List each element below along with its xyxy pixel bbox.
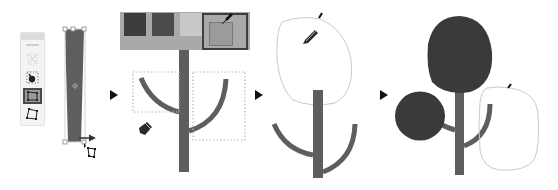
step-arrow-3-icon xyxy=(380,90,388,100)
right-branch xyxy=(464,104,490,146)
step-arrow-1-icon xyxy=(110,90,118,100)
trunk xyxy=(179,50,189,172)
step-4-tree xyxy=(395,16,539,175)
left-branch xyxy=(274,124,313,155)
eyedropper-icon xyxy=(222,14,232,24)
left-branch xyxy=(141,78,179,112)
right-foliage-outline xyxy=(479,87,539,170)
left-branch-selection xyxy=(133,72,179,112)
drag-arrow-icon xyxy=(79,135,96,142)
trunk xyxy=(455,90,464,175)
step-3-tree xyxy=(274,13,355,178)
trunk xyxy=(313,90,323,178)
step-1-trunk xyxy=(63,27,96,158)
left-foliage xyxy=(395,92,445,141)
pencil-cursor-icon xyxy=(319,13,322,18)
step-arrow-2-icon xyxy=(255,90,263,100)
distort-cursor-icon xyxy=(84,143,96,158)
right-branch xyxy=(323,124,355,172)
right-branch xyxy=(189,79,226,131)
pen-tool-icon xyxy=(139,122,152,135)
top-foliage xyxy=(428,16,493,93)
diagram-canvas xyxy=(0,0,558,190)
pencil-cursor-icon xyxy=(508,84,511,88)
step-2-tree xyxy=(133,14,245,172)
pencil-tool-icon xyxy=(303,30,318,44)
